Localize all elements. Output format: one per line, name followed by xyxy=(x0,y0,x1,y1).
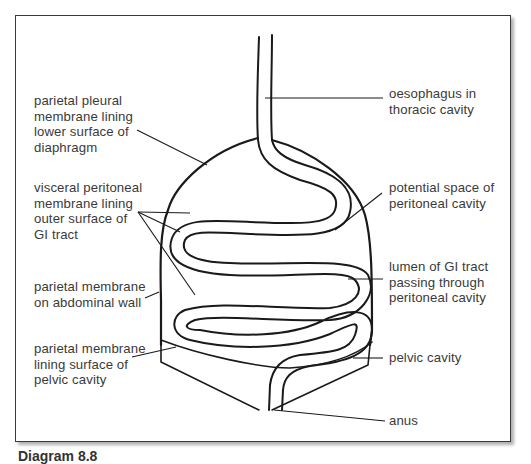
label-pelvic-cavity: pelvic cavity xyxy=(389,350,461,366)
label-anus: anus xyxy=(389,413,418,429)
label-parietal-membrane-pelvic-cavity: parietal membrane lining surface of pelv… xyxy=(34,341,146,388)
label-lumen-gi-tract: lumen of GI tract passing through perito… xyxy=(389,259,488,306)
label-parietal-pleural-membrane: parietal pleural membrane lining lower s… xyxy=(34,93,133,155)
label-parietal-membrane-abdominal-wall: parietal membrane on abdominal wall xyxy=(34,279,146,310)
diaphragm-dome-left xyxy=(161,138,258,345)
leader-visceral-1 xyxy=(138,212,190,213)
figure-caption: Diagram 8.8 xyxy=(18,448,97,464)
label-oesophagus: oesophagus in thoracic cavity xyxy=(389,86,476,117)
gi-tract-outer-wall xyxy=(170,37,358,410)
leader-anus xyxy=(274,410,385,421)
leader-parietal-abdominal xyxy=(145,292,159,298)
leader-parietal-pleural xyxy=(137,130,207,165)
pelvic-floor-surface xyxy=(161,340,372,368)
label-potential-space: potential space of peritoneal cavity xyxy=(389,180,494,211)
label-visceral-peritoneal-membrane: visceral peritoneal membrane lining oute… xyxy=(34,180,142,242)
